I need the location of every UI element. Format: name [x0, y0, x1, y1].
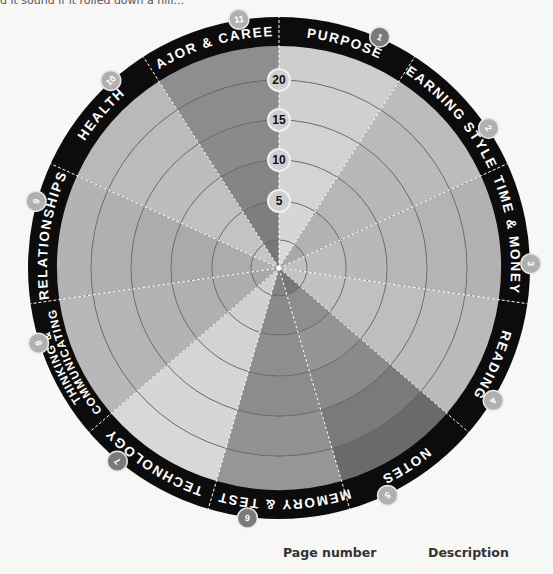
- svg-text:11: 11: [233, 14, 244, 25]
- svg-text:10: 10: [272, 153, 286, 167]
- segment-number-badge: 1: [370, 27, 390, 47]
- segment-number-badge: 5: [378, 485, 398, 505]
- segment-number-badge: 7: [107, 451, 127, 471]
- segment-number-badge: 10: [101, 70, 121, 90]
- page-number-label: Page number: [283, 545, 376, 560]
- segment-number-badge: 8: [28, 333, 48, 353]
- segment-number-badge: 2: [479, 118, 499, 138]
- svg-text:3: 3: [526, 261, 536, 266]
- segment-number-badge: 3: [521, 254, 541, 274]
- wedge-band: [226, 410, 332, 456]
- scale-badge-5: 5: [268, 190, 290, 212]
- segment-number-badge: 6: [237, 508, 257, 528]
- segment-number-badge: 9: [26, 191, 46, 211]
- scale-badge-20: 20: [268, 69, 290, 91]
- svg-text:15: 15: [272, 113, 286, 127]
- scale-badge-10: 10: [268, 149, 290, 171]
- segment-number-badge: 11: [229, 9, 249, 29]
- scale-badge-15: 15: [268, 109, 290, 131]
- wedge-band: [237, 372, 320, 416]
- description-label: Description: [428, 545, 509, 560]
- svg-text:20: 20: [272, 73, 286, 87]
- segment-number-badge: 4: [483, 391, 503, 411]
- wheel-chart: PURPOSELEARNING STYLESTIME & MONEYREADIN…: [0, 0, 553, 574]
- center-dot: [277, 266, 281, 270]
- svg-text:5: 5: [276, 194, 283, 208]
